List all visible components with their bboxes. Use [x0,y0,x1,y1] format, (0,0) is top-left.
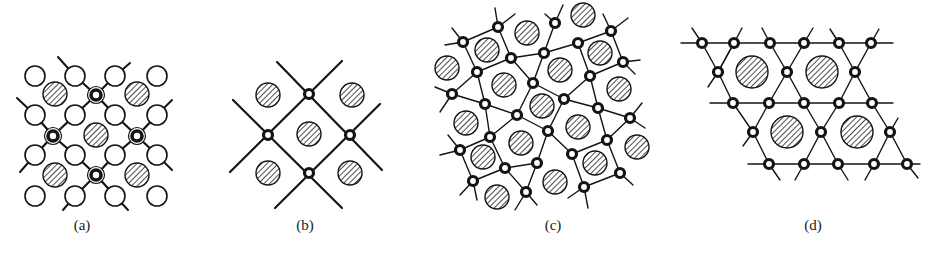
hatched-atom [492,73,516,97]
lattice-figure [0,0,936,255]
ring-atom [459,38,468,47]
ring-atom [835,39,844,48]
ring-atom [903,160,912,169]
open-circle-atom [105,105,125,125]
ring-atom [765,160,774,169]
hatched-atom [43,82,67,106]
ring-atom [729,99,738,108]
ring-atom [619,58,628,67]
panel-a-diagram [17,57,172,210]
ring-atom [603,136,612,145]
ring-atom [851,68,860,77]
open-circle-atom [105,145,125,165]
hatched-atom [736,56,768,88]
open-circle-atom [147,145,167,165]
hatched-atom [543,170,567,194]
hatched-atom [771,116,803,148]
ring-atom [305,90,314,99]
hatched-atom [43,163,67,187]
ring-atom [886,128,895,137]
ring-atom [765,99,774,108]
ring-atom [616,169,625,178]
ring-atom [481,100,490,109]
ring-atom [586,72,595,81]
hatched-atom [571,3,595,27]
panel-c-diagram [435,3,649,210]
ring-atom [714,68,723,77]
double-ring-atom [132,131,142,141]
ring-atom [494,23,503,32]
open-circle-atom [147,186,167,206]
ring-atom [469,177,478,186]
panel-d-diagram [681,28,920,180]
ring-atom [766,39,775,48]
open-circle-atom [65,66,85,86]
hatched-atom [548,58,572,82]
open-circle-atom [25,105,45,125]
ring-atom [800,39,809,48]
open-circle-atom [65,186,85,206]
open-circle-atom [25,186,45,206]
hatched-atom [515,21,539,45]
hatched-atom [340,83,364,107]
double-ring-atom [91,90,101,100]
open-circle-atom [147,105,167,125]
hatched-atom [475,38,499,62]
ring-atom [568,150,577,159]
ring-atom [560,95,569,104]
panel-label-a: (a) [74,218,91,233]
double-ring-atom [91,170,101,180]
hatched-atom [530,94,554,118]
ring-atom [626,114,635,123]
panel-label-c: (c) [545,218,562,233]
ring-atom [551,19,560,28]
hatched-atom [125,82,149,106]
hatched-atom [454,111,478,135]
ring-atom [473,68,482,77]
ring-atom [456,146,465,155]
ring-atom [574,39,583,48]
ring-atom [264,131,273,140]
ring-atom [835,99,844,108]
ring-atom [870,160,879,169]
ring-atom [305,169,314,178]
ring-atom [867,39,876,48]
hatched-atom [256,83,280,107]
ring-atom [507,54,516,63]
panel-label-b: (b) [296,218,314,233]
ring-atom [501,164,510,173]
open-circle-atom [147,66,167,86]
hatched-atom [125,163,149,187]
ring-atom [817,128,826,137]
ring-atom [533,159,542,168]
open-circle-atom [65,145,85,165]
panel-label-d: (d) [804,218,822,233]
ring-atom [448,90,457,99]
hatched-atom [588,41,612,65]
open-circle-atom [25,145,45,165]
ring-atom [580,183,589,192]
hatched-atom [583,151,607,175]
ring-atom [834,160,843,169]
ring-atom [800,99,809,108]
ring-atom [607,27,616,36]
ring-atom [544,127,553,136]
ring-atom [749,128,758,137]
hatched-atom [485,185,509,209]
open-circle-atom [105,186,125,206]
ring-atom [522,188,531,197]
ring-atom [868,99,877,108]
hatched-atom [256,161,280,185]
hatched-atom [509,131,533,155]
ring-atom [783,68,792,77]
open-circle-atom [105,66,125,86]
bond-line [230,61,342,172]
open-circle-atom [65,105,85,125]
double-ring-atom [48,131,58,141]
hatched-atom [841,116,873,148]
hatched-atom [297,122,321,146]
hatched-atom [566,115,590,139]
ring-atom [529,79,538,88]
hatched-atom [84,123,108,147]
panel-b-diagram [230,61,382,208]
